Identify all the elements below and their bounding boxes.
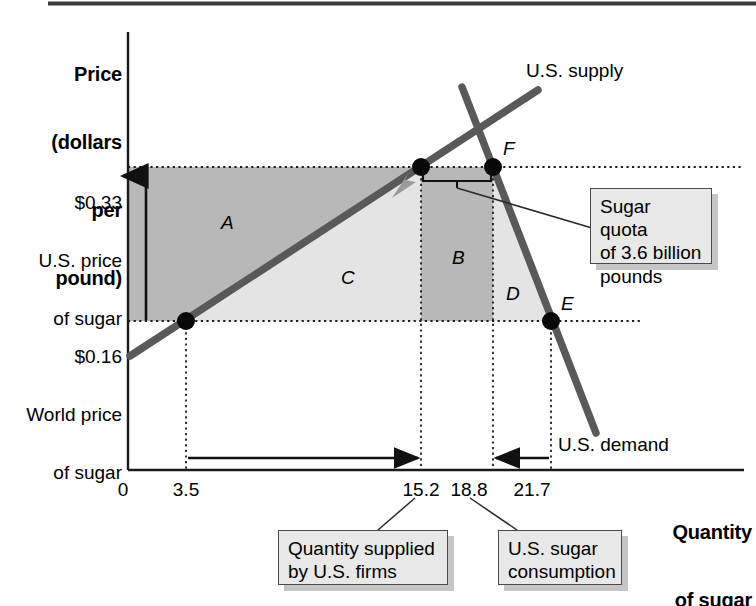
region-b-shade <box>421 167 493 321</box>
point-e-21-7 <box>542 312 560 330</box>
region-b-label: B <box>452 247 465 268</box>
us-demand-label: U.S. demand <box>558 434 669 455</box>
region-a-label: A <box>221 212 234 233</box>
x-tick-3-5: 3.5 <box>156 479 216 500</box>
point-f-18-8 <box>484 158 502 176</box>
callout-quantity-supplied: Quantity supplied by U.S. firms <box>278 530 448 585</box>
x-tick-18-8: 18.8 <box>438 479 500 500</box>
point-f-label: F <box>503 138 515 159</box>
callout-quantity-supplied-line2: by U.S. firms <box>288 560 438 583</box>
supplied-leader-line <box>378 498 415 530</box>
callout-us-sugar-consumption-line1: U.S. sugar <box>508 537 612 560</box>
figure-root: Price (dollars per pound) Quantity of su… <box>0 0 756 606</box>
point-supply-15-2 <box>412 158 430 176</box>
callout-quantity-supplied-line1: Quantity supplied <box>288 537 438 560</box>
y-tick-016-value: $0.16 <box>0 346 122 367</box>
region-d-label: D <box>506 283 520 304</box>
x-tick-21-7: 21.7 <box>501 479 563 500</box>
consumption-leader-line <box>470 498 517 530</box>
callout-sugar-quota: Sugar quota of 3.6 billion pounds <box>590 188 712 264</box>
y-tick-016-note-1: World price <box>0 404 122 426</box>
callout-us-sugar-consumption: U.S. sugar consumption <box>498 530 622 585</box>
x-axis-title-line1: Quantity <box>634 521 752 544</box>
x-axis-title-line2: of sugar <box>634 589 752 606</box>
y-tick-033-value: $0.33 <box>0 192 122 213</box>
callout-us-sugar-consumption-line2: consumption <box>508 560 612 583</box>
point-e-label: E <box>561 293 574 314</box>
callout-sugar-quota-line2: of 3.6 billion <box>600 241 702 264</box>
y-axis-title-line2: (dollars <box>10 131 122 154</box>
y-tick-033-note-1: U.S. price <box>0 250 122 272</box>
callout-sugar-quota-line3: pounds <box>600 265 702 288</box>
x-tick-0: 0 <box>103 479 143 500</box>
region-c-label: C <box>341 267 355 288</box>
us-supply-label: U.S. supply <box>526 60 623 81</box>
callout-sugar-quota-line1: Sugar quota <box>600 195 702 241</box>
x-axis-title: Quantity of sugar (billions of pounds) <box>634 476 752 606</box>
point-supply-3-5 <box>177 312 195 330</box>
y-axis-title-line1: Price <box>10 63 122 86</box>
